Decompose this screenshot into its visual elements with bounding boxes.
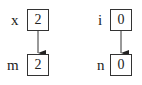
node-x-value: 2 [35, 13, 42, 27]
label-x: x [11, 13, 19, 28]
node-n-value: 0 [118, 58, 125, 72]
node-n: 0 [110, 54, 132, 76]
node-i: 0 [110, 9, 132, 31]
label-i: i [98, 13, 102, 28]
node-x: 2 [27, 9, 49, 31]
label-m: m [7, 58, 19, 73]
node-m-value: 2 [35, 58, 42, 72]
node-i-value: 0 [118, 13, 125, 27]
label-n: n [97, 58, 105, 73]
node-m: 2 [27, 54, 49, 76]
